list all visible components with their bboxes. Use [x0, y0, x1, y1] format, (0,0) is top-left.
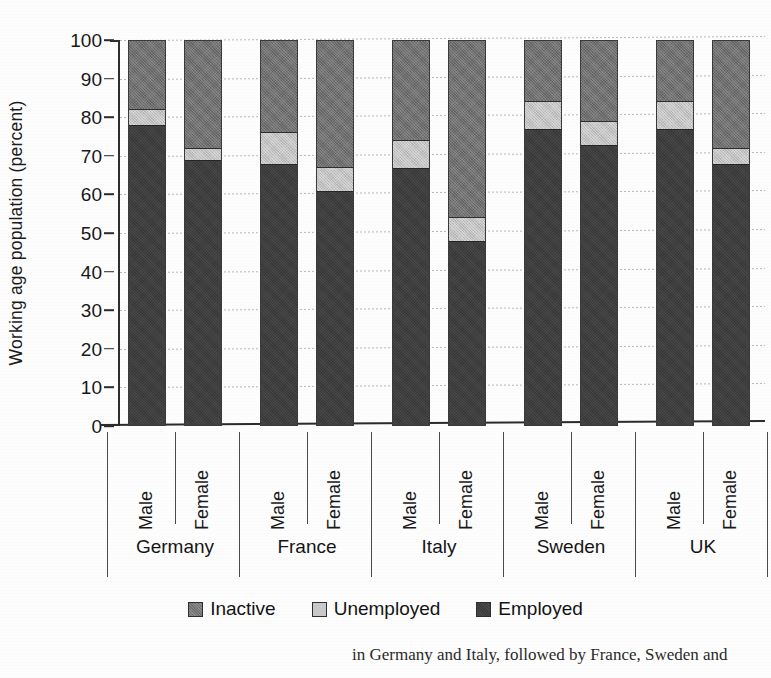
y-tick-label: 30 [81, 301, 102, 320]
segment-unemployed [448, 217, 486, 241]
segment-employed [524, 129, 562, 426]
axis-divider-major [107, 432, 108, 577]
axis-label-uk-male: Male [664, 430, 690, 530]
legend-item-employed: Employed [476, 598, 583, 620]
segment-inactive [448, 40, 486, 217]
axis-label-italy-female: Female [456, 430, 482, 530]
bar-italy-female [448, 40, 486, 426]
bar-france-female [316, 40, 354, 426]
y-tick-mark [104, 116, 114, 118]
y-tick-label: 100 [70, 31, 102, 50]
axis-label-uk-female: Female [720, 430, 746, 530]
group-label-italy: Italy [422, 536, 457, 558]
legend-label-employed: Employed [498, 598, 583, 620]
axis-label-sweden-male: Male [532, 430, 558, 530]
bar-sweden-female [580, 40, 618, 426]
y-tick-label: 10 [81, 378, 102, 397]
segment-inactive [184, 40, 222, 148]
segment-employed [712, 164, 750, 426]
employed-swatch-icon [476, 602, 491, 617]
unemployed-swatch-icon [312, 602, 327, 617]
axis-divider-minor [571, 432, 572, 524]
bar-germany-male [128, 40, 166, 426]
y-tick-mark [104, 348, 114, 350]
axis-divider-minor [175, 432, 176, 524]
axis-divider-major [635, 432, 636, 577]
segment-unemployed [656, 101, 694, 129]
segment-inactive [128, 40, 166, 109]
segment-employed [448, 241, 486, 426]
axis-label-france-female: Female [324, 430, 350, 530]
y-tick-label: 0 [91, 417, 102, 436]
page-caption: in Germany and Italy, followed by France… [0, 648, 771, 678]
axis-label-france-male: Male [268, 430, 294, 530]
y-axis-top-cap [110, 40, 120, 42]
y-tick-label: 90 [81, 69, 102, 88]
legend-item-inactive: Inactive [188, 598, 275, 620]
segment-employed [392, 168, 430, 426]
segment-inactive [524, 40, 562, 101]
stacked-bar-chart: Working age population (percent) 0102030… [0, 0, 771, 678]
y-tick-mark [104, 387, 114, 389]
group-label-uk: UK [690, 536, 716, 558]
segment-inactive [392, 40, 430, 140]
y-tick-mark [104, 194, 114, 196]
bar-italy-male [392, 40, 430, 426]
axis-label-germany-male: Male [136, 430, 162, 530]
segment-unemployed [580, 121, 618, 145]
y-tick-mark [104, 78, 114, 80]
segment-employed [316, 191, 354, 426]
bars-container [120, 40, 765, 426]
segment-employed [128, 125, 166, 426]
legend-item-unemployed: Unemployed [312, 598, 441, 620]
group-label-france: France [277, 536, 336, 558]
segment-inactive [580, 40, 618, 121]
segment-unemployed [524, 101, 562, 129]
y-tick-label: 50 [81, 224, 102, 243]
axis-divider-minor [307, 432, 308, 524]
segment-unemployed [316, 167, 354, 191]
bar-uk-female [712, 40, 750, 426]
segment-unemployed [712, 148, 750, 164]
inactive-swatch-icon [188, 602, 203, 617]
bar-sweden-male [524, 40, 562, 426]
y-tick-label: 20 [81, 339, 102, 358]
group-label-germany: Germany [136, 536, 214, 558]
y-tick-label: 70 [81, 146, 102, 165]
axis-divider-major [767, 432, 768, 577]
segment-unemployed [392, 140, 430, 168]
bar-uk-male [656, 40, 694, 426]
y-tick-mark [104, 309, 114, 311]
group-axis-labels: GermanyFranceItalySwedenUK [120, 536, 765, 572]
bar-france-male [260, 40, 298, 426]
y-tick-mark [104, 232, 114, 234]
axis-divider-minor [703, 432, 704, 524]
segment-unemployed [260, 132, 298, 164]
segment-unemployed [128, 109, 166, 125]
axis-divider-major [239, 432, 240, 577]
axis-label-italy-male: Male [400, 430, 426, 530]
segment-employed [656, 129, 694, 426]
axis-divider-minor [439, 432, 440, 524]
legend-label-unemployed: Unemployed [334, 598, 441, 620]
group-label-sweden: Sweden [537, 536, 606, 558]
chart-legend: Inactive Unemployed Employed [0, 598, 771, 620]
axis-divider-major [371, 432, 372, 577]
segment-employed [184, 160, 222, 426]
legend-label-inactive: Inactive [210, 598, 275, 620]
y-tick-mark [104, 271, 114, 273]
segment-unemployed [184, 148, 222, 161]
segment-employed [260, 164, 298, 426]
axis-divider-major [503, 432, 504, 577]
segment-inactive [712, 40, 750, 148]
bar-germany-female [184, 40, 222, 426]
segment-inactive [260, 40, 298, 132]
segment-employed [580, 145, 618, 426]
category-axis-labels: MaleFemaleMaleFemaleMaleFemaleMaleFemale… [120, 430, 765, 535]
y-tick-mark [104, 155, 114, 157]
axis-label-germany-female: Female [192, 430, 218, 530]
caption-text: in Germany and Italy, followed by France… [352, 648, 728, 665]
y-tick-label: 60 [81, 185, 102, 204]
segment-inactive [656, 40, 694, 101]
axis-label-sweden-female: Female [588, 430, 614, 530]
